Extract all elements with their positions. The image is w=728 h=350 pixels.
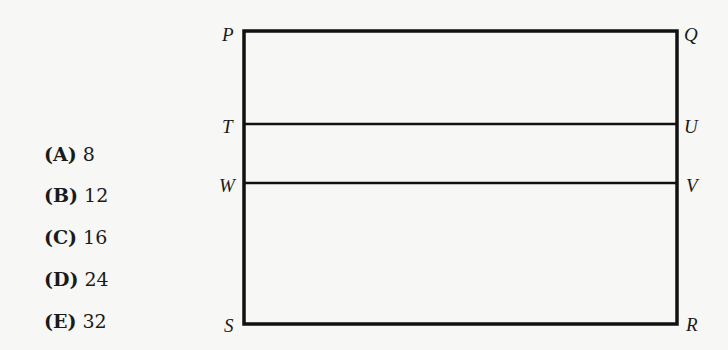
- choice-d[interactable]: (D)24: [44, 270, 109, 289]
- vertex-label-s: S: [224, 316, 234, 335]
- vertex-label-r: R: [686, 315, 698, 334]
- choice-letter: (C): [44, 226, 77, 248]
- choice-value: 24: [84, 268, 108, 290]
- choice-letter: (A): [44, 143, 77, 165]
- vertex-label-u: U: [684, 117, 698, 136]
- rectangle-diagram-svg: [0, 0, 728, 350]
- choice-b[interactable]: (B)12: [44, 186, 108, 205]
- choice-e[interactable]: (E)32: [44, 312, 107, 331]
- choice-letter: (B): [44, 184, 78, 206]
- vertex-label-t: T: [222, 117, 233, 136]
- vertex-label-v: V: [686, 176, 698, 195]
- choice-letter: (D): [44, 268, 78, 290]
- choice-a[interactable]: (A)8: [44, 145, 95, 164]
- choice-letter: (E): [44, 310, 76, 332]
- choice-value: 32: [82, 310, 106, 332]
- choice-value: 12: [84, 184, 108, 206]
- choice-value: 16: [83, 226, 107, 248]
- choice-c[interactable]: (C)16: [44, 228, 107, 247]
- vertex-label-p: P: [222, 25, 234, 44]
- vertex-label-q: Q: [684, 25, 698, 44]
- choice-value: 8: [83, 143, 95, 165]
- rectangle-pqrs: [244, 31, 677, 324]
- vertex-label-w: W: [219, 176, 235, 195]
- rectangle-figure: P Q T U W V S R: [0, 0, 728, 350]
